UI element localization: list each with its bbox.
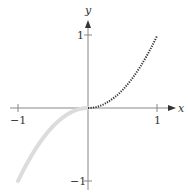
x-axis-arrow-icon <box>168 105 176 111</box>
x-axis-label: x <box>178 102 185 115</box>
y-tick-label-neg-one: −1 <box>70 175 86 188</box>
x-tick-label-neg-one: −1 <box>10 114 26 127</box>
left-branch-curve <box>18 108 88 181</box>
function-plot: x y −1 1 1 −1 <box>0 0 188 195</box>
y-axis-arrow-icon <box>85 20 91 28</box>
y-tick-label-pos-one: 1 <box>77 29 84 42</box>
right-branch-curve <box>88 36 157 108</box>
y-axis-label: y <box>84 4 92 17</box>
x-tick-label-pos-one: 1 <box>154 114 161 127</box>
